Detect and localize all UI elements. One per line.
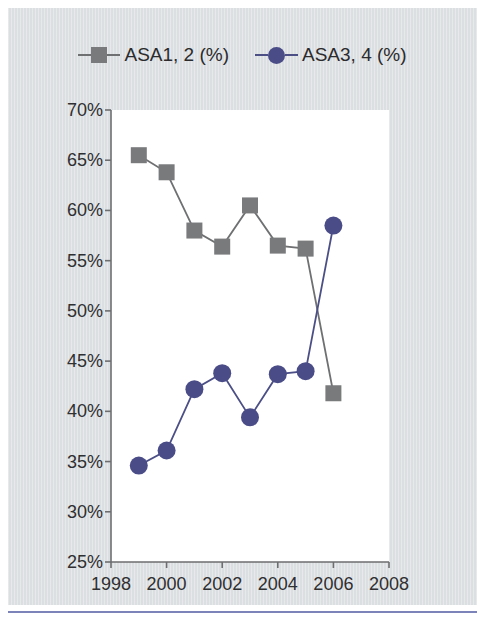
chart-figure: ASA1, 2 (%) ASA3, 4 (%) 70%65%60%55%50%4… (0, 0, 485, 626)
data-point-marker (242, 197, 258, 213)
legend-item-asa12[interactable]: ASA1, 2 (%) (78, 44, 229, 66)
data-point-marker (130, 457, 148, 475)
series-asa12 (131, 147, 342, 401)
data-point-marker (298, 241, 314, 257)
square-marker-icon (91, 47, 107, 63)
data-point-marker (213, 364, 231, 382)
x-tick-label: 2002 (202, 574, 242, 595)
y-tick-label: 70% (43, 100, 103, 121)
y-tick-label: 45% (43, 351, 103, 372)
data-point-marker (185, 380, 203, 398)
chart-axes (105, 110, 389, 568)
circle-marker-icon (268, 47, 285, 64)
data-point-marker (186, 223, 202, 239)
y-tick-label: 50% (43, 300, 103, 321)
data-point-marker (297, 362, 315, 380)
data-point-marker (324, 217, 342, 235)
data-point-marker (241, 408, 259, 426)
x-tick-label: 2004 (258, 574, 298, 595)
legend-label-asa34: ASA3, 4 (%) (302, 44, 407, 66)
data-point-marker (159, 164, 175, 180)
y-tick-label: 55% (43, 250, 103, 271)
y-tick-label: 65% (43, 150, 103, 171)
x-tick-label: 2008 (369, 574, 409, 595)
data-point-marker (270, 238, 286, 254)
legend-item-asa34[interactable]: ASA3, 4 (%) (255, 44, 407, 66)
legend-label-asa12: ASA1, 2 (%) (124, 44, 229, 66)
x-tick-label: 2006 (313, 574, 353, 595)
legend-line-left-gray (78, 54, 91, 56)
y-tick-label: 35% (43, 451, 103, 472)
data-point-marker (131, 147, 147, 163)
chart-legend: ASA1, 2 (%) ASA3, 4 (%) (0, 44, 485, 66)
y-tick-label: 40% (43, 401, 103, 422)
legend-line-right-gray (107, 54, 120, 56)
data-point-marker (325, 385, 341, 401)
legend-line-right-blue (285, 54, 298, 56)
x-tick-label: 2000 (147, 574, 187, 595)
y-tick-label: 25% (43, 552, 103, 573)
data-point-marker (214, 239, 230, 255)
data-point-marker (269, 365, 287, 383)
legend-line-left-blue (255, 54, 268, 56)
x-tick-label: 1998 (91, 574, 131, 595)
y-tick-label: 60% (43, 200, 103, 221)
data-point-marker (158, 442, 176, 460)
y-tick-label: 30% (43, 501, 103, 522)
